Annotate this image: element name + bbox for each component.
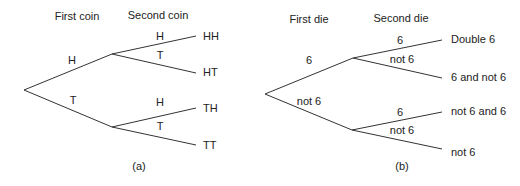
branch-label: 6 [397,106,403,118]
stage-header: Second coin [128,9,189,21]
outcome-label: not 6 and 6 [451,105,506,117]
diagram-caption: (a) [132,160,145,172]
branch-label: 6 [397,34,403,46]
branch-label: not 6 [297,95,321,107]
branch-label: H [156,30,164,42]
branch-line [112,127,196,145]
coin-toss-tree-diagram: HTHTHTFirst coinSecond coinHHHTTHTT(a) [24,9,219,172]
die-roll-tree-diagram: 6not 66not 66not 6First dieSecond dieDou… [265,12,506,172]
outcome-label: HT [203,66,218,78]
branch-line [112,108,196,127]
branch-label: not 6 [390,124,414,136]
branch-label: T [157,120,164,132]
diagram-caption: (b) [395,160,408,172]
outcome-label: HH [203,30,219,42]
branch-label: H [68,54,76,66]
branch-line [112,54,196,73]
stage-header: Second die [373,12,428,24]
branch-line [112,36,196,54]
stage-header: First die [289,13,328,25]
branch-label: T [70,94,77,106]
branch-label: not 6 [390,53,414,65]
branch-label: 6 [306,54,312,66]
branch-line [24,90,112,127]
branch-label: T [157,49,164,61]
outcome-label: Double 6 [451,33,495,45]
outcome-label: not 6 [451,146,475,158]
stage-header: First coin [55,10,100,22]
tree-diagrams-figure: HTHTHTFirst coinSecond coinHHHTTHTT(a) 6… [0,0,520,186]
outcome-label: TH [203,102,218,114]
outcome-label: TT [203,139,217,151]
outcome-label: 6 and not 6 [451,71,506,83]
branch-label: H [156,96,164,108]
tree-diagrams-svg: HTHTHTFirst coinSecond coinHHHTTHTT(a) 6… [0,0,520,186]
